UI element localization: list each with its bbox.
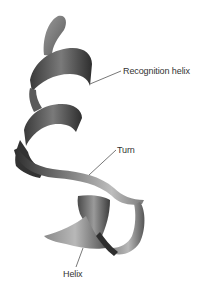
lower-helix-right-arc xyxy=(112,202,145,255)
turn-leader-line xyxy=(89,150,116,175)
helix-label: Helix xyxy=(63,269,83,279)
ribbon-structure xyxy=(0,0,199,290)
helix-leader-line xyxy=(76,248,83,267)
turn-label: Turn xyxy=(117,145,135,155)
recognition-helix-lower-band xyxy=(24,104,82,146)
recognition-helix-back-segment xyxy=(29,88,42,112)
recognition-helix-leader-line xyxy=(90,71,121,84)
recognition-helix-label: Recognition helix xyxy=(123,66,190,76)
helix-turn-helix-diagram: Recognition helix Turn Helix xyxy=(0,0,199,290)
recognition-helix-upper-band xyxy=(30,48,92,92)
